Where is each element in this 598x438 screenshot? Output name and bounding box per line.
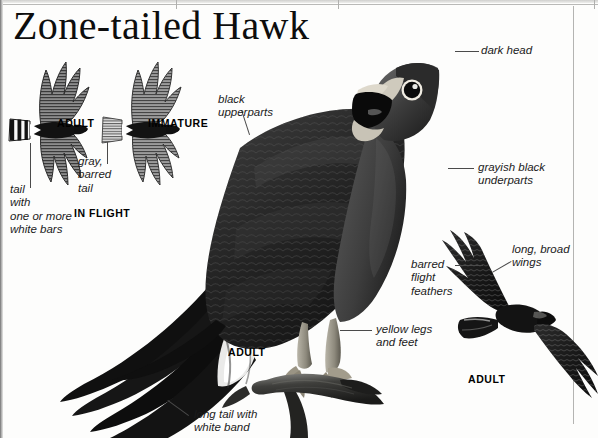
page-left-edge [0,0,3,438]
leader-line-grayish-black-underparts [448,168,474,169]
caption-soaring-adult: ADULT [468,373,506,385]
annotation-gray-barred-tail: gray, barred tail [78,155,111,195]
caption-immature-in-flight: IMMATURE [148,117,208,129]
soaring-adult-illustration [438,212,598,412]
annotation-grayish-black-underparts: grayish black underparts [478,161,545,188]
annotation-long-tail-white-band: long tail with white band [194,408,257,435]
annotation-black-upperparts: black upperparts [218,93,273,120]
annotation-tail-white-bars: tail with one or more white bars [10,183,72,237]
annotation-barred-flight-feathers: barred flight feathers [411,258,453,298]
page-tick-mark [594,0,595,9]
caption-in-flight: IN FLIGHT [74,207,130,219]
leader-line-barred-flight-feathers [455,265,483,266]
page-tick-mark [338,0,339,9]
perched-adult-illustration [40,28,440,438]
annotation-long-broad-wings: long, broad wings [512,243,570,270]
caption-adult-in-flight: ADULT [57,117,95,129]
leader-line-dark-head [455,51,479,52]
leader-line-tail-white-bars [30,143,31,188]
field-guide-plate: Zone-tailed Hawk [0,0,598,438]
annotation-yellow-legs-and-feet: yellow legs and feet [376,323,432,350]
annotation-dark-head: dark head [481,44,532,57]
leader-line-yellow-legs-and-feet [340,330,372,331]
caption-perched-adult: ADULT [228,346,266,358]
